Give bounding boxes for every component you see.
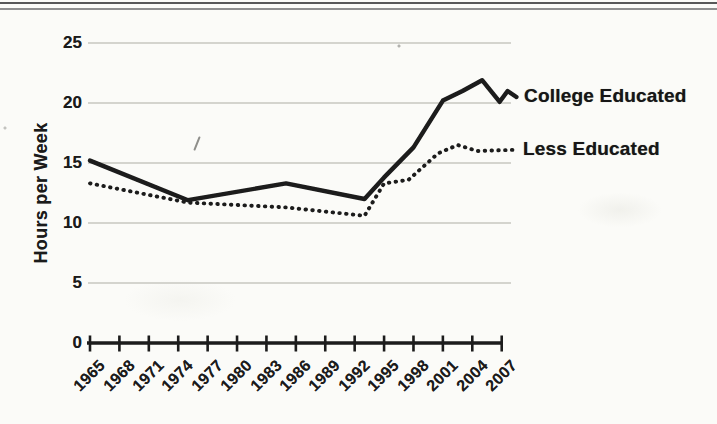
y-tick-label-15: 15 (36, 153, 82, 173)
series-label-less-educated: Less Educated (523, 138, 660, 160)
y-tick-label-20: 20 (36, 93, 82, 113)
y-axis-title: Hours per Week (31, 123, 52, 264)
hours-per-week-line-chart: Hours per Week College Educated Less Edu… (0, 0, 717, 424)
y-tick-label-10: 10 (36, 213, 82, 233)
college-educated-line (90, 80, 516, 200)
y-tick-label-25: 25 (36, 33, 82, 53)
series-label-college-educated: College Educated (524, 85, 687, 107)
y-tick-label-5: 5 (36, 273, 82, 293)
less-educated-line (90, 145, 514, 216)
y-tick-label-0: 0 (36, 333, 82, 353)
scanned-page: Hours per Week College Educated Less Edu… (0, 0, 717, 424)
